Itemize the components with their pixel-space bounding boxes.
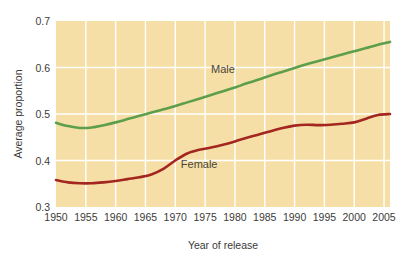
x-axis-tick-label: 1985 xyxy=(253,211,277,223)
y-axis-tick-label: 0.6 xyxy=(35,62,50,74)
x-axis-title: Year of release xyxy=(188,239,258,251)
chart-figure: 0.30.40.50.60.7 195019551960196519701975… xyxy=(0,0,411,260)
x-axis-tick-label: 1970 xyxy=(164,211,188,223)
x-axis-tick-label: 2005 xyxy=(372,211,396,223)
y-axis-title: Average proportion xyxy=(12,69,24,158)
series-label-male: Male xyxy=(211,63,235,75)
x-axis-tick-label: 2000 xyxy=(343,211,367,223)
x-axis-tick-label: 1995 xyxy=(313,211,337,223)
x-axis-tick-label: 1975 xyxy=(193,211,217,223)
x-axis-tick-label: 1955 xyxy=(74,211,98,223)
y-axis-tick-label: 0.7 xyxy=(35,15,50,27)
x-axis-tick-label: 1990 xyxy=(283,211,307,223)
x-axis-tick-label: 1960 xyxy=(104,211,128,223)
y-axis-tick-label: 0.4 xyxy=(35,155,50,167)
series-label-female: Female xyxy=(181,158,218,170)
x-axis-tick-label: 1965 xyxy=(134,211,158,223)
y-axis-tick-label: 0.5 xyxy=(35,108,50,120)
line-chart: 0.30.40.50.60.7 195019551960196519701975… xyxy=(0,0,411,260)
x-axis-tick-label: 1950 xyxy=(44,211,68,223)
x-axis-tick-label: 1980 xyxy=(223,211,247,223)
